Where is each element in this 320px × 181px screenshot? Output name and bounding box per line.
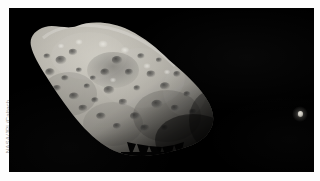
astronomy-photograph: [9, 8, 314, 172]
asteroid-ida-render: [17, 16, 229, 164]
image-viewer: NASA/JPL/Caltech: [0, 0, 320, 181]
asteroid-ida: [17, 16, 229, 164]
moon-dactyl: [292, 106, 308, 122]
moon-dactyl-body: [298, 111, 303, 117]
asteroid-layer: [9, 8, 314, 172]
